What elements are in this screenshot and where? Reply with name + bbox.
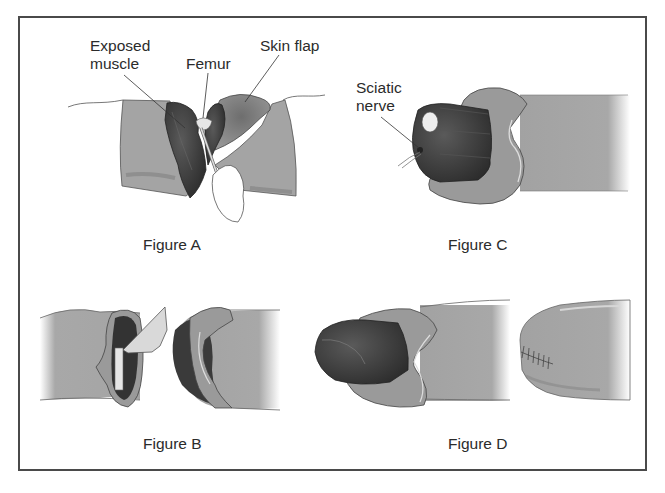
label-exposed-muscle: Exposed muscle [90,37,150,73]
caption-figure-b: Figure B [143,435,202,453]
caption-figure-c: Figure C [448,236,507,254]
label-line: Sciatic [356,79,402,97]
illustration-canvas [0,0,665,493]
figure-d-illustration [315,300,630,407]
figure-b-illustration [40,307,280,410]
label-line: muscle [90,55,150,73]
label-line: nerve [356,97,402,115]
label-femur: Femur [186,55,231,73]
figure-c-illustration [381,88,630,204]
label-line: Exposed [90,37,150,55]
caption-figure-a: Figure A [143,236,201,254]
figure-a-illustration [68,55,325,222]
caption-figure-d: Figure D [448,435,507,453]
label-skin-flap: Skin flap [260,37,319,55]
label-sciatic-nerve: Sciatic nerve [356,79,402,115]
